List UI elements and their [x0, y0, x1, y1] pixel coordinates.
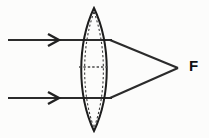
refracted-rays-group	[110, 40, 178, 98]
converging-lens-diagram: F	[0, 0, 209, 138]
upper-refracted-ray-line	[110, 40, 178, 68]
lens-group	[79, 8, 109, 131]
optics-diagram-canvas: F	[0, 0, 209, 138]
lower-refracted-ray-line	[110, 68, 178, 98]
lower-incident-ray	[8, 92, 112, 104]
focal-point-label: F	[189, 57, 198, 74]
upper-incident-ray	[8, 34, 112, 46]
incident-rays-group	[8, 34, 112, 104]
